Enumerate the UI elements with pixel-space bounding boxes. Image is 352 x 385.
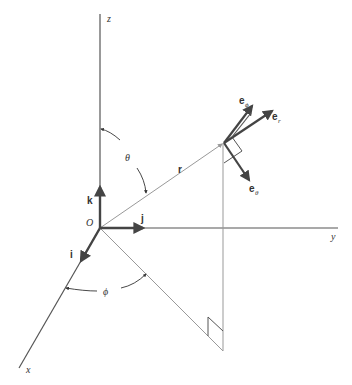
svg-text:θ: θ: [255, 189, 259, 197]
j-label: j: [140, 213, 144, 224]
phi-arc-left: [66, 288, 97, 291]
e-r-label: e r: [272, 111, 281, 125]
y-axis-label: y: [330, 231, 336, 242]
spherical-coordinates-diagram: z y x O k j i r θ ϕ e ϕ e r e θ: [0, 0, 352, 385]
k-label: k: [87, 195, 93, 206]
theta-arc-upper: [101, 129, 120, 140]
x-axis-label: x: [25, 364, 31, 375]
i-vector: [81, 228, 100, 261]
e-phi-vector: [224, 106, 252, 143]
svg-text:r: r: [278, 117, 281, 125]
e-r-vector: [224, 111, 272, 143]
position-vector-r: [100, 144, 222, 228]
origin-label: O: [86, 217, 93, 228]
phi-label: ϕ: [103, 286, 108, 297]
z-axis-label: z: [106, 13, 111, 24]
e-r-vector-secondary: [232, 113, 251, 137]
i-label: i: [70, 249, 73, 260]
phi-arc-right: [121, 274, 146, 288]
r-label: r: [178, 164, 182, 175]
svg-text:ϕ: ϕ: [245, 101, 249, 109]
right-angle-marker-bottom: [208, 317, 223, 336]
e-theta-label: e θ: [249, 183, 259, 197]
theta-label: θ: [125, 152, 130, 163]
theta-arc-lower: [137, 168, 146, 193]
e-phi-label: e ϕ: [239, 95, 249, 109]
xy-projection-line: [100, 228, 223, 351]
e-theta-vector: [224, 143, 249, 180]
